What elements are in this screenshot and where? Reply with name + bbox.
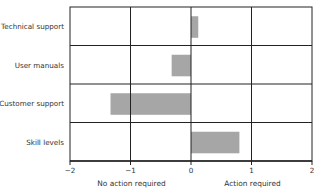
chart-canvas: Technical supportUser manualsCustomer su…	[0, 0, 317, 192]
category-label: User manuals	[15, 61, 65, 70]
axis-annotation: No action required	[97, 179, 166, 188]
x-axis-ticks: −2−1012	[65, 161, 315, 175]
diverging-bar-chart: Technical supportUser manualsCustomer su…	[0, 0, 317, 192]
x-tick-label: 2	[310, 166, 315, 175]
grid-layer	[70, 7, 312, 161]
x-tick-label: 0	[189, 166, 194, 175]
bars-layer	[111, 16, 240, 153]
x-axis-annotations: No action requiredAction required	[97, 179, 281, 188]
bar-customer-support	[111, 93, 191, 115]
x-tick-label: −1	[125, 166, 136, 175]
axis-annotation: Action required	[224, 179, 281, 188]
bar-user-manuals	[172, 55, 191, 77]
category-labels: Technical supportUser manualsCustomer su…	[0, 22, 64, 147]
bar-skill-levels	[191, 132, 239, 154]
category-label: Technical support	[0, 22, 64, 31]
x-tick-label: −2	[65, 166, 76, 175]
category-label: Skill levels	[26, 138, 64, 147]
bar-technical-support	[191, 16, 198, 38]
x-tick-label: 1	[249, 166, 254, 175]
category-label: Customer support	[0, 99, 64, 108]
